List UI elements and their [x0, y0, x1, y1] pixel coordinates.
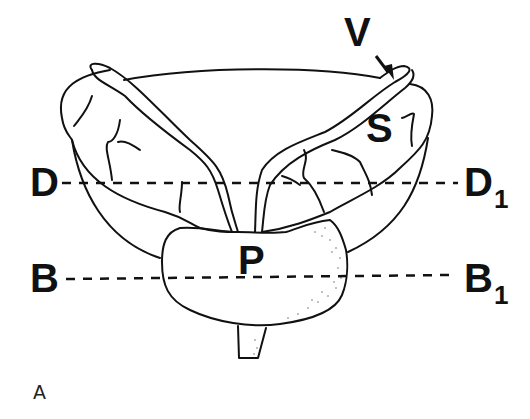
- label-prostate: P: [238, 240, 265, 280]
- pointer-arrow: [376, 56, 394, 80]
- bladder-rim: [124, 69, 380, 80]
- vesicle-right: [262, 84, 432, 232]
- label-b-subscript: 1: [494, 280, 508, 310]
- label-section-b-start: B: [30, 258, 59, 298]
- urethra: [238, 326, 266, 358]
- vas-left-inner: [92, 70, 232, 232]
- stipple-shading: [253, 227, 341, 354]
- label-section-d-start: D: [30, 162, 59, 202]
- label-d-subscript: 1: [494, 184, 508, 214]
- drawing: [0, 0, 530, 419]
- label-section-b-end: B1: [464, 258, 508, 298]
- label-vas-deferens: V: [344, 12, 371, 52]
- label-b-base: B: [464, 256, 493, 300]
- panel-label: A: [33, 381, 46, 403]
- label-d-base: D: [464, 160, 493, 204]
- bladder-outline-left: [72, 140, 160, 258]
- label-section-d-end: D1: [464, 162, 508, 202]
- anatomical-diagram: V S P D D1 B B1 A: [0, 0, 530, 419]
- label-seminal-vesicle: S: [366, 108, 393, 148]
- vesicle-left: [61, 70, 238, 232]
